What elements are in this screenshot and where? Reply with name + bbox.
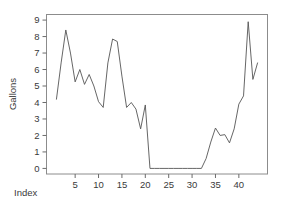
x-tick-label: 10	[93, 179, 104, 190]
y-tick-label: 2	[34, 130, 39, 141]
x-tick-label: 25	[163, 179, 174, 190]
y-tick-label: 6	[34, 64, 39, 75]
y-tick-label: 1	[34, 146, 39, 157]
x-tick-label: 20	[140, 179, 151, 190]
y-tick-label: 4	[34, 97, 39, 108]
y-axis-title: Gallons	[7, 78, 18, 110]
y-tick-label: 0	[34, 163, 39, 174]
y-tick-label: 7	[34, 47, 39, 58]
y-tick-label: 9	[34, 14, 39, 25]
x-tick-label: 30	[187, 179, 198, 190]
x-tick-label: 35	[210, 179, 221, 190]
x-tick-label: 15	[117, 179, 128, 190]
x-tick-label: 40	[234, 179, 245, 190]
x-axis-title: Index	[14, 187, 37, 198]
y-tick-label: 8	[34, 31, 39, 42]
y-tick-label: 5	[34, 80, 39, 91]
y-tick-label: 3	[34, 113, 39, 124]
chart-screenshot: 0123456789 510152025303540 Gallons Index	[0, 0, 288, 213]
line-chart: 0123456789 510152025303540 Gallons Index	[0, 0, 288, 213]
x-tick-label: 5	[73, 179, 78, 190]
